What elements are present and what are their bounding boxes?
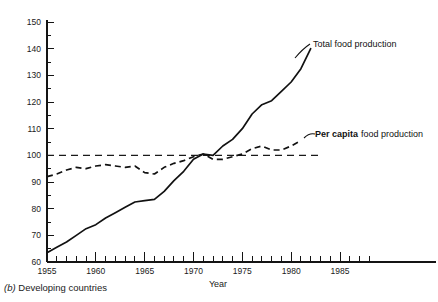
- y-axis-tick-labels: 60708090100110120130140150: [27, 17, 41, 267]
- figure-container: 60708090100110120130140150 1955196019651…: [0, 0, 438, 302]
- x-tick-label: 1975: [233, 266, 252, 276]
- y-tick-label: 100: [27, 150, 41, 160]
- x-tick-label: 1980: [282, 266, 301, 276]
- x-tick-label: 1965: [135, 266, 154, 276]
- y-tick-label: 90: [32, 177, 42, 187]
- y-tick-label: 140: [27, 44, 41, 54]
- x-tick-label: 1985: [331, 266, 350, 276]
- x-tick-label: 1960: [86, 266, 105, 276]
- food-production-line-chart: 60708090100110120130140150 1955196019651…: [0, 0, 438, 302]
- x-axis-minor-ticks: [57, 256, 370, 262]
- caption-text: Developing countries: [18, 282, 107, 293]
- x-axis-title: Year: [209, 279, 227, 289]
- figure-caption: (b) Developing countries: [4, 282, 107, 293]
- x-tick-label: 1955: [38, 266, 57, 276]
- y-tick-label: 150: [27, 17, 41, 27]
- y-tick-label: 80: [32, 204, 42, 214]
- caption-marker: (b): [4, 282, 16, 293]
- x-tick-label: 1970: [184, 266, 203, 276]
- y-tick-label: 110: [27, 124, 41, 134]
- y-axis-group: 60708090100110120130140150: [27, 17, 54, 267]
- y-tick-label: 120: [27, 97, 41, 107]
- annotation-per-capita-food-production: Per capitafood production: [315, 129, 423, 139]
- y-axis-ticks: [47, 22, 54, 262]
- x-axis-tick-labels: 1955196019651970197519801985: [38, 266, 350, 276]
- y-tick-label: 130: [27, 70, 41, 80]
- series-total-food-production: [47, 49, 311, 253]
- per-capita-label-leader-line: [304, 134, 315, 138]
- y-tick-label: 70: [32, 230, 42, 240]
- annotation-total-food-production: Total food production: [313, 39, 397, 49]
- series-per-capita-food-production: [47, 141, 301, 177]
- x-axis-major-ticks: [47, 252, 340, 262]
